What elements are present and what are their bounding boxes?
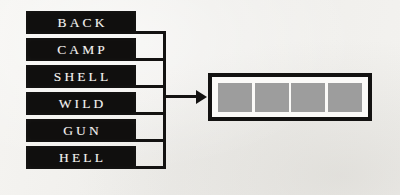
label-bar-gun[interactable]: GUN — [26, 119, 136, 142]
connector-line-gun — [136, 139, 166, 142]
connector-spine — [163, 31, 166, 169]
arrow-head-icon — [196, 90, 207, 104]
output-cell[interactable] — [328, 83, 362, 112]
label-bar-camp[interactable]: CAMP — [26, 38, 136, 61]
label-text: GUN — [60, 123, 102, 137]
label-text: SHELL — [51, 69, 112, 83]
label-bar-shell[interactable]: SHELL — [26, 65, 136, 88]
label-text: HELL — [56, 150, 106, 164]
output-cell[interactable] — [291, 83, 325, 112]
label-bar-back[interactable]: BACK — [26, 11, 136, 34]
connector-line-shell — [136, 85, 166, 88]
connector-line-hell — [136, 166, 166, 169]
connector-line-back — [136, 31, 166, 34]
label-bar-hell[interactable]: HELL — [26, 146, 136, 169]
diagram-canvas: BACK CAMP SHELL WILD GUN HELL — [0, 0, 400, 195]
label-bar-wild[interactable]: WILD — [26, 92, 136, 115]
output-cell[interactable] — [218, 83, 252, 112]
label-text: BACK — [54, 15, 107, 29]
arrow-shaft — [163, 95, 198, 98]
output-cell[interactable] — [255, 83, 289, 112]
label-text: CAMP — [54, 42, 108, 56]
connector-line-wild — [136, 112, 166, 115]
connector-line-camp — [136, 58, 166, 61]
label-text: WILD — [56, 96, 107, 110]
output-box[interactable] — [208, 73, 372, 121]
